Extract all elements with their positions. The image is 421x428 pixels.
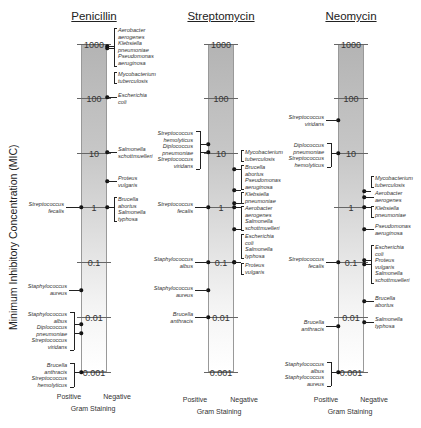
bacteria-label: StaphylococcusalbusStaphylococcusaureus xyxy=(285,361,324,387)
bracket-line xyxy=(371,245,374,246)
bacteria-name: Proteus xyxy=(245,262,264,269)
tick-label: 0.1 xyxy=(215,258,228,267)
bacteria-name: Streptococcus xyxy=(158,130,193,137)
bacteria-name: Brucella xyxy=(375,295,395,302)
bacteria-label: Mycobacteriumtuberculosis xyxy=(245,149,283,162)
bracket-line xyxy=(114,83,117,84)
bacteria-name: hemolyticus xyxy=(158,137,193,144)
bacteria-label: DiplococcuspneumoniaeStreptococcushemoly… xyxy=(289,142,324,168)
bacteria-name: Brucella xyxy=(301,319,324,326)
bacteria-name: aeruginosa xyxy=(375,230,411,237)
leader-line xyxy=(234,229,241,230)
bacteria-name: typhosa xyxy=(118,216,146,223)
tick-label: 0.001 xyxy=(210,368,233,377)
bacteria-name: Escherichia xyxy=(245,233,274,240)
bacteria-label: Streptococcusfecalis xyxy=(158,201,193,214)
bacteria-name: Salmonella xyxy=(375,270,410,277)
bacteria-name: Salmonella xyxy=(245,246,274,253)
bacteria-name: Streptococcus xyxy=(32,375,67,382)
bacteria-name: Proteus xyxy=(375,257,410,264)
bracket-line xyxy=(331,362,332,386)
leader-line xyxy=(234,262,241,263)
leader-line xyxy=(331,153,338,154)
bracket-line xyxy=(114,28,115,66)
bracket-line xyxy=(114,66,117,67)
tick-label: 0.01 xyxy=(212,313,230,322)
leader-line xyxy=(107,97,117,98)
bacteria-name: anthracis xyxy=(170,318,193,325)
bracket-line xyxy=(196,169,200,170)
bracket-line xyxy=(241,150,244,151)
bacteria-label: BrucellaabortusPseudomonasaeruginosa xyxy=(245,164,281,190)
bacteria-name: vulgaris xyxy=(375,264,410,271)
bacteria-name: Streptococcus xyxy=(289,114,324,121)
bracket-line xyxy=(331,143,332,167)
bacteria-name: Staphylococcus xyxy=(28,311,67,318)
tick-label: 100 xyxy=(86,94,101,103)
bracket-line xyxy=(241,234,242,258)
bacteria-name: anthracis xyxy=(301,326,324,333)
bacteria-name: Streptococcus xyxy=(29,201,64,208)
bacteria-name: vulgaris xyxy=(245,269,264,276)
leader-line xyxy=(234,169,241,170)
bracket-line xyxy=(114,72,117,73)
bacteria-name: aerogenes xyxy=(118,34,154,41)
bracket-line xyxy=(114,197,117,198)
bacteria-name: Streptococcus xyxy=(158,156,193,163)
bacteria-name: Pseudomonas xyxy=(375,223,411,230)
leader-line xyxy=(234,190,241,191)
bacteria-label: Mycobacteriumtuberculosis xyxy=(375,175,413,188)
bacteria-name: Pseudomonas xyxy=(118,53,154,60)
bacteria-name: abortus xyxy=(118,203,146,210)
bacteria-name: Diplococcus xyxy=(158,143,193,150)
bracket-line xyxy=(74,363,75,387)
leader-line xyxy=(364,301,374,302)
bacteria-name: pneumoniae xyxy=(289,149,324,156)
bacteria-name: Streptococcus xyxy=(289,155,324,162)
bracket-line xyxy=(241,206,244,207)
bracket-line xyxy=(327,386,331,387)
bracket-line xyxy=(371,206,372,217)
bracket-line xyxy=(241,165,242,189)
bracket-line xyxy=(371,187,374,188)
bacteria-name: Klebsiella xyxy=(375,205,406,212)
bacteria-name: Diplococcus xyxy=(289,142,324,149)
bacteria-label: Brucellaanthracis xyxy=(170,311,193,324)
leader-line xyxy=(66,207,81,208)
bacteria-name: aeruginosa xyxy=(245,184,281,191)
bacteria-label: Proteusvulgaris xyxy=(118,175,137,188)
bacteria-name: aeruginosa xyxy=(118,60,154,67)
bacteria-label: BrucellaanthracisStreptococcushemolyticu… xyxy=(32,362,67,388)
bracket-line xyxy=(371,217,374,218)
bacteria-name: Escherichia xyxy=(118,92,147,99)
panel-title-streptomycin: Streptomycin xyxy=(187,10,254,22)
tick-label: 1000 xyxy=(341,40,361,49)
tick-label: 10 xyxy=(346,149,356,158)
bacteria-label: Mycobacteriumtuberculosis xyxy=(118,71,156,84)
bacteria-name: viridans xyxy=(289,121,324,128)
bacteria-name: anthracis xyxy=(32,369,67,376)
bacteria-name: coli xyxy=(118,99,147,106)
bacteria-name: hemolyticus xyxy=(32,382,67,389)
bacteria-label: Staphylococcusaureus xyxy=(154,285,193,298)
bracket-line xyxy=(371,176,374,177)
bacteria-label: Streptococcusfecalis xyxy=(289,256,324,269)
bracket-line xyxy=(196,131,200,132)
leader-line xyxy=(200,144,208,145)
bacteria-name: Mycobacterium xyxy=(245,149,283,156)
panel-title-penicillin: Penicillin xyxy=(71,10,116,22)
bacteria-name: coli xyxy=(375,251,410,258)
bracket-line xyxy=(70,363,74,364)
leader-line xyxy=(364,207,371,208)
leader-line xyxy=(74,372,81,373)
leader-line xyxy=(331,372,338,373)
bracket-line xyxy=(241,189,244,190)
tick-label: 0.1 xyxy=(345,258,358,267)
bracket-line xyxy=(74,312,75,350)
gram-staining-label-neomycin: Gram Staining xyxy=(328,408,373,415)
bacteria-label: Brucellaabortus xyxy=(375,295,395,308)
gram-negative-label-penicillin: Negative xyxy=(103,393,131,400)
bacteria-name: typhosa xyxy=(245,253,274,260)
bracket-line xyxy=(114,221,117,222)
bacteria-name: albus xyxy=(285,368,324,375)
